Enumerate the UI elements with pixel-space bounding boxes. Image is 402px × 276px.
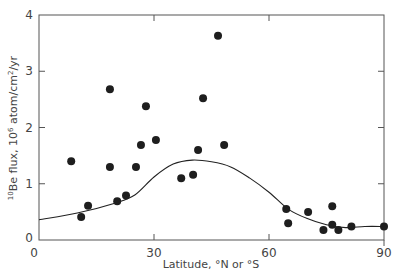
svg-text:10Be flux, 106 atom/cm2/yr: 10Be flux, 106 atom/cm2/yr: [7, 55, 20, 200]
data-point: [137, 141, 145, 149]
axis-ticks: [39, 15, 384, 246]
data-point: [304, 208, 312, 216]
axis-tick-labels: 030609001234: [25, 8, 391, 260]
data-points: [67, 32, 388, 234]
data-point: [113, 197, 121, 205]
data-point: [77, 213, 85, 221]
y-tick-label: 4: [25, 8, 33, 22]
data-point: [214, 32, 222, 40]
x-axis-label: Latitude, °N or °S: [163, 258, 260, 271]
data-point: [347, 223, 355, 231]
x-tick-label: 0: [30, 246, 38, 260]
x-tick-label: 30: [146, 246, 161, 260]
data-point: [328, 202, 336, 210]
data-point: [122, 192, 130, 200]
data-point: [152, 136, 160, 144]
data-point: [328, 221, 336, 229]
data-point: [194, 146, 202, 154]
model-curve: [39, 160, 384, 228]
data-point: [67, 157, 75, 165]
x-tick-label: 90: [376, 246, 391, 260]
y-tick-label: 1: [25, 177, 33, 191]
data-point: [319, 226, 327, 234]
data-point: [334, 226, 342, 234]
x-tick-label: 60: [261, 246, 276, 260]
data-point: [284, 219, 292, 227]
data-point: [199, 94, 207, 102]
data-point: [380, 223, 388, 231]
data-point: [282, 205, 290, 213]
data-point: [84, 202, 92, 210]
y-tick-label: 3: [25, 64, 33, 78]
y-axis-label: 10Be flux, 106 atom/cm2/yr: [7, 55, 20, 200]
data-point: [106, 85, 114, 93]
data-point: [142, 102, 150, 110]
flux-vs-latitude-chart: 030609001234 Latitude, °N or °S 10Be flu…: [0, 0, 402, 276]
data-point: [177, 174, 185, 182]
data-point: [220, 141, 228, 149]
y-tick-label: 2: [25, 121, 33, 135]
y-tick-label: 0: [25, 231, 33, 245]
data-point: [106, 163, 114, 171]
data-point: [189, 171, 197, 179]
data-point: [132, 163, 140, 171]
